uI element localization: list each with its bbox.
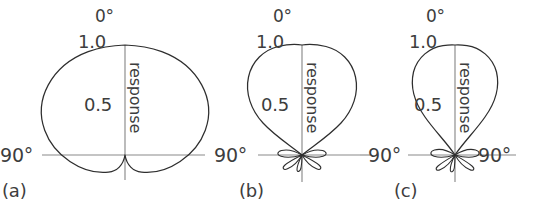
panel-c: 0° 1.0 0.5 response 90° 90° (c) bbox=[360, 0, 535, 213]
panel-b-caption: (b) bbox=[239, 182, 264, 200]
panel-c-radial-mid-label: 0.5 bbox=[414, 96, 442, 114]
panel-b-angle-top-label: 0° bbox=[273, 8, 292, 25]
panel-a-radial-mid-label: 0.5 bbox=[84, 96, 112, 114]
panel-b-radial-axis-label: response bbox=[304, 62, 320, 133]
panel-c-angle-top-label: 0° bbox=[426, 8, 445, 25]
panel-a-angle-left-label: 90° bbox=[0, 146, 33, 165]
panel-a: 0° 1.0 0.5 response 90° (a) bbox=[0, 0, 215, 213]
panel-b-radial-max-label: 1.0 bbox=[256, 33, 284, 51]
panel-a-angle-top-label: 0° bbox=[95, 8, 114, 25]
polar-pattern-figure: 0° 1.0 0.5 response 90° (a) 0° 1.0 0.5 r… bbox=[0, 0, 535, 213]
panel-b-radial-mid-label: 0.5 bbox=[261, 96, 289, 114]
panel-b-angle-left-label: 90° bbox=[214, 146, 247, 165]
panel-c-radial-max-label: 1.0 bbox=[409, 33, 437, 51]
panel-c-angle-right-label: 90° bbox=[478, 146, 511, 165]
panel-a-radial-max-label: 1.0 bbox=[78, 33, 106, 51]
panel-c-caption: (c) bbox=[394, 182, 417, 200]
panel-b-side-lobe-upper-left bbox=[278, 150, 302, 157]
panel-c-plot bbox=[360, 0, 535, 213]
panel-c-angle-left-label: 90° bbox=[368, 146, 401, 165]
panel-b: 0° 1.0 0.5 response 90° (b) bbox=[215, 0, 360, 213]
panel-c-radial-axis-label: response bbox=[457, 62, 473, 133]
panel-a-caption: (a) bbox=[2, 182, 26, 200]
panel-b-side-lobe-upper-right bbox=[302, 150, 326, 157]
panel-a-radial-axis-label: response bbox=[127, 62, 143, 133]
